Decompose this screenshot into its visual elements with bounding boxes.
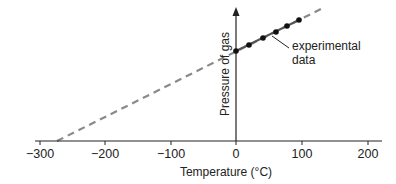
chart-svg: −300 −200 −100 0 100 200 Temperature (°C…	[0, 0, 396, 184]
data-point	[233, 48, 239, 54]
chart: −300 −200 −100 0 100 200 Temperature (°C…	[0, 0, 396, 184]
data-point	[284, 23, 290, 29]
annotation-experimental: experimental	[292, 39, 361, 53]
x-axis-label: Temperature (°C)	[180, 165, 272, 179]
data-solid-line	[236, 20, 299, 51]
tick-label-200: 200	[358, 147, 379, 161]
data-point	[246, 42, 252, 48]
y-axis-arrow-icon	[233, 7, 240, 16]
tick-label-neg300: −300	[26, 147, 54, 161]
x-ticks	[40, 141, 368, 145]
annotation-leader-line	[272, 36, 289, 48]
data-point	[260, 35, 266, 41]
tick-label-100: 100	[292, 147, 313, 161]
data-point	[273, 29, 279, 35]
data-point	[296, 17, 302, 23]
annotation-data: data	[292, 53, 316, 67]
y-axis-label: Pressure of gas	[218, 32, 232, 116]
tick-label-0: 0	[233, 147, 240, 161]
tick-label-neg100: −100	[157, 147, 185, 161]
tick-label-neg200: −200	[91, 147, 119, 161]
